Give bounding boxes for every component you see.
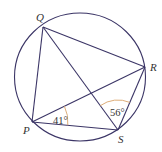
segment-qp <box>32 27 43 122</box>
angle-arc-s <box>100 100 130 106</box>
segment-pr <box>32 67 145 122</box>
segment-rs <box>118 67 145 130</box>
angle-label-s: 56° <box>110 107 125 118</box>
point-label-r: R <box>149 61 157 73</box>
cyclic-quadrilateral-diagram: Q R P S 41° 56° <box>0 0 162 152</box>
point-label-p: P <box>22 124 30 136</box>
segment-qr <box>43 27 145 67</box>
segment-ps <box>32 122 118 130</box>
angle-label-p: 41° <box>53 115 68 126</box>
point-label-q: Q <box>36 11 44 23</box>
point-label-s: S <box>118 133 124 145</box>
